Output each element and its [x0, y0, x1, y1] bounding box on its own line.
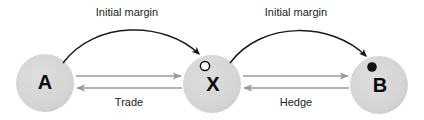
- edge-label-initial-margin-right: Initial margin: [265, 6, 327, 18]
- edge-hedge: Hedge: [243, 76, 349, 108]
- edge-label-trade: Trade: [115, 96, 143, 108]
- node-b-label: B: [373, 74, 387, 96]
- curved-arrow-a-to-x-icon: [63, 30, 199, 63]
- edge-label-initial-margin-left: Initial margin: [96, 6, 158, 18]
- node-b[interactable]: B: [350, 56, 408, 114]
- edge-initial-margin-left: Initial margin: [63, 6, 199, 63]
- curved-arrow-b-to-x-icon: [230, 31, 366, 63]
- node-a[interactable]: A: [16, 54, 74, 112]
- filled-circle-marker-icon: [367, 62, 377, 72]
- node-x[interactable]: X: [183, 55, 241, 113]
- edge-label-hedge: Hedge: [280, 96, 312, 108]
- node-link-diagram: A X B Initial margin Initial margin Trad…: [0, 0, 424, 120]
- node-a-label: A: [38, 71, 52, 93]
- node-x-label: X: [206, 73, 220, 95]
- diagram-canvas: A X B Initial margin Initial margin Trad…: [0, 0, 424, 120]
- hollow-circle-marker-icon: [200, 61, 209, 70]
- edge-initial-margin-right: Initial margin: [230, 6, 366, 63]
- edge-trade: Trade: [76, 76, 182, 108]
